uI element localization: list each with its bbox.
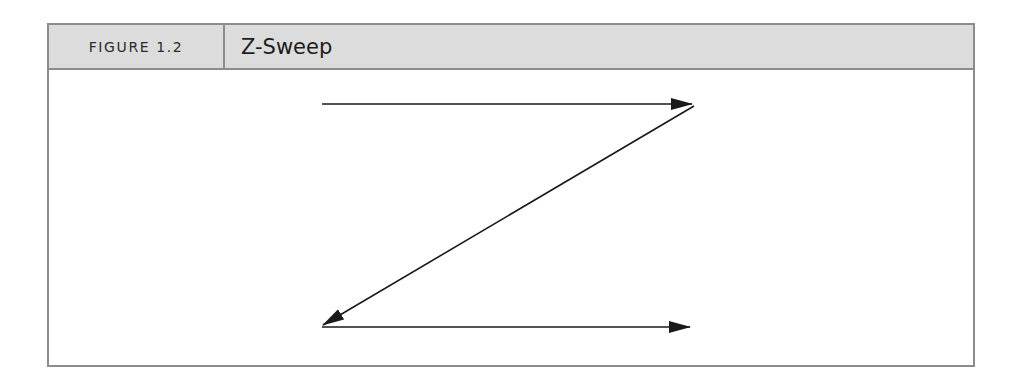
z-sweep-diagram [0,0,1016,385]
diagonal-arrow [323,106,694,325]
